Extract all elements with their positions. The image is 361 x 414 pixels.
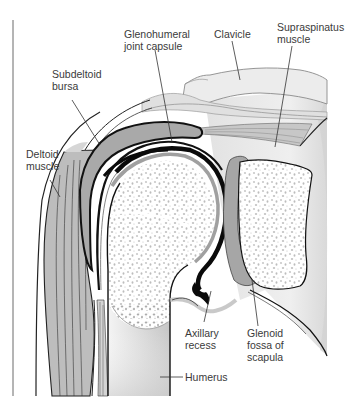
shoulder-joint-diagram: Glenohumeral joint capsule Clavicle Supr… xyxy=(0,0,361,414)
shoulder-illustration xyxy=(0,0,361,414)
glenoid-fossa-bone xyxy=(239,160,313,289)
label-glenoid-fossa-of-scapula: Glenoid fossa of scapula xyxy=(247,327,284,363)
label-axillary-recess: Axillary recess xyxy=(185,327,219,351)
deltoid-muscle xyxy=(44,150,104,396)
humeral-head xyxy=(107,161,215,328)
label-supraspinatus-muscle: Supraspinatus muscle xyxy=(277,21,344,45)
label-clavicle: Clavicle xyxy=(214,28,251,40)
label-glenohumeral-joint-capsule: Glenohumeral joint capsule xyxy=(124,28,190,52)
axillary-recess-shape xyxy=(192,282,209,305)
label-subdeltoid-bursa: Subdeltoid bursa xyxy=(52,68,102,92)
label-humerus: Humerus xyxy=(185,371,228,383)
leader-bursa xyxy=(72,100,100,145)
label-deltoid-muscle: Deltoid muscle xyxy=(26,148,59,172)
